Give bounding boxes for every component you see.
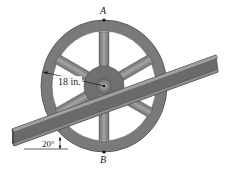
point-a-label: A bbox=[100, 5, 106, 16]
radius-label: 18 in. bbox=[57, 76, 82, 87]
point-b-label: B bbox=[100, 154, 106, 165]
point-a-marker bbox=[102, 18, 105, 21]
angle-label: 20° bbox=[42, 139, 55, 149]
i-beam-end-face bbox=[12, 129, 14, 146]
wheel-beam-diagram bbox=[0, 0, 229, 169]
